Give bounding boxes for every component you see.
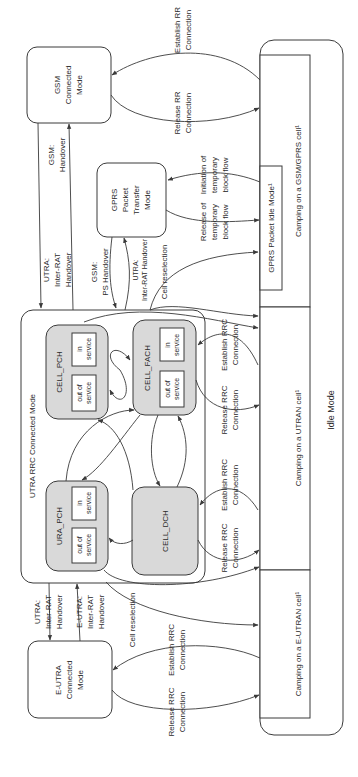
gsm-connected-mode-state: GSM Connected Mode xyxy=(27,47,111,123)
svg-text:Release RRC: Release RRC xyxy=(220,523,229,572)
label-establish-rrc-2: Establish RRC Connection xyxy=(220,459,240,511)
label-release-rrc-3: Release RRC Connection xyxy=(167,687,187,736)
ins-line2: service xyxy=(85,338,92,360)
camping-utran-label: Camping on a UTRAN cell¹ xyxy=(294,389,303,486)
cell-pch-state: CELL_PCH out of service in service xyxy=(46,325,108,419)
svg-text:UTRA:: UTRA: xyxy=(33,600,42,624)
svg-text:Initiation of: Initiation of xyxy=(199,155,208,194)
oos-line2: service xyxy=(85,534,92,556)
label-establish-rr: Establish RR Connection xyxy=(173,7,193,53)
svg-text:Connection: Connection xyxy=(184,10,193,50)
label-gsm-ps-handover: GSM: PS Handover xyxy=(90,248,110,296)
label-gsm-handover: GSM: Handover xyxy=(47,137,67,172)
svg-text:Handover: Handover xyxy=(58,137,67,172)
ins-line1: in xyxy=(164,342,171,348)
label-init-tbf: Initiation of temporary block flow xyxy=(199,155,230,194)
svg-text:Release RRC: Release RRC xyxy=(220,385,229,434)
gsm-connected-line3: Mode xyxy=(75,74,84,95)
svg-text:Release RRC: Release RRC xyxy=(167,687,176,736)
cell-pch-label: CELL_PCH xyxy=(55,351,64,393)
utra-rrc-label: UTRA RRC Connected Mode xyxy=(28,393,37,498)
label-release-rrc-2: Release RRC Connection xyxy=(220,523,240,572)
label-utra-irat-handover-2: UTRA: Inter-RAT Handover xyxy=(132,238,148,301)
svg-text:Handover: Handover xyxy=(55,594,64,629)
camping-eutran-label: Camping on a E-UTRAN cell¹ xyxy=(294,591,303,696)
svg-text:Connection: Connection xyxy=(231,528,240,568)
label-cell-reselection-top: Cell reselection xyxy=(160,245,169,300)
idle-mode-label: Idle Mode xyxy=(326,390,336,430)
label-cell-reselection-bottom: Cell reselection xyxy=(128,593,137,648)
camping-gsm-label: Camping on a GSM/GPRS cell¹ xyxy=(294,125,303,237)
svg-text:Connection: Connection xyxy=(178,630,187,670)
oos-line2: service xyxy=(173,378,180,400)
svg-text:temporary: temporary xyxy=(210,204,219,240)
svg-text:GSM:: GSM: xyxy=(47,145,56,165)
eutra-line1: E-UTRA xyxy=(54,664,63,694)
svg-text:PS Handover: PS Handover xyxy=(101,248,110,296)
eutra-connected-mode-state: E-UTRA Connected Mode xyxy=(28,641,112,718)
cell-dch-state: CELL_DCH xyxy=(132,487,198,575)
svg-text:GSM:: GSM: xyxy=(90,262,99,282)
ins-line1: in xyxy=(76,346,83,352)
ins-line1: in xyxy=(76,500,83,506)
ins-line2: service xyxy=(85,492,92,514)
camping-eutran-box: Camping on a E-UTRAN cell¹ xyxy=(260,570,310,718)
svg-text:temporary: temporary xyxy=(210,157,219,193)
svg-text:Establish RRC: Establish RRC xyxy=(220,459,229,511)
ins-line2: service xyxy=(173,334,180,356)
gprs-packet-idle-label: GPRS Packet Idle Mode¹ xyxy=(267,183,276,273)
svg-text:UTRA:: UTRA: xyxy=(42,258,51,282)
svg-text:Connection: Connection xyxy=(184,93,193,133)
label-release-tbf: Release of temporary block flow xyxy=(199,202,230,241)
cell-fach-label: CELL_FACH xyxy=(143,345,152,391)
rrc-state-diagram: Idle Mode Camping on a GSM/GPRS cell¹ GP… xyxy=(0,0,358,777)
svg-text:Connection: Connection xyxy=(231,325,240,365)
svg-text:Connection: Connection xyxy=(231,390,240,430)
camping-utran-box: Camping on a UTRAN cell¹ xyxy=(260,307,310,570)
svg-text:Handover: Handover xyxy=(64,252,73,287)
gprs-line2: Packet xyxy=(121,187,130,212)
svg-text:Release RR: Release RR xyxy=(173,91,182,134)
svg-text:Connection: Connection xyxy=(178,692,187,732)
oos-line2: service xyxy=(85,382,92,404)
gprs-line4: Mode xyxy=(143,189,152,210)
oos-line1: out of xyxy=(164,380,171,398)
svg-text:E-UTRA:: E-UTRA: xyxy=(75,596,84,628)
cell-dch-label: CELL_DCH xyxy=(161,510,170,552)
svg-text:Inter-RAT Handover: Inter-RAT Handover xyxy=(141,238,148,301)
label-release-rr: Release RR Connection xyxy=(173,91,193,134)
label-establish-rrc-1: Establish RRC Connection xyxy=(220,319,240,371)
label-utra-irat-handover-3: UTRA: Inter-RAT Handover xyxy=(33,594,64,629)
oos-line1: out of xyxy=(76,536,83,554)
svg-text:block flow: block flow xyxy=(221,204,230,239)
svg-text:Handover: Handover xyxy=(97,594,106,629)
ura-pch-label: URA_PCH xyxy=(55,507,64,545)
label-establish-rrc-3: Establish RRC Connection xyxy=(167,624,187,676)
svg-text:Inter-RAT: Inter-RAT xyxy=(44,595,53,629)
svg-text:Establish RR: Establish RR xyxy=(173,7,182,53)
svg-text:UTRA:: UTRA: xyxy=(132,259,139,280)
eutra-line2: Connected xyxy=(65,661,74,700)
cell-fach-state: CELL_FACH out of service in service xyxy=(133,320,196,415)
gsm-connected-line2: Connected xyxy=(64,66,73,105)
svg-text:Inter-RAT: Inter-RAT xyxy=(86,595,95,629)
svg-text:Inter-RAT: Inter-RAT xyxy=(53,253,62,287)
label-utra-irat-handover: UTRA: Inter-RAT Handover xyxy=(42,252,73,287)
gprs-line3: Transfer xyxy=(132,185,141,215)
svg-text:block flow: block flow xyxy=(221,157,230,192)
gprs-line1: GPRS xyxy=(110,189,119,212)
label-eutra-irat-handover: E-UTRA: Inter-RAT Handover xyxy=(75,594,106,629)
svg-text:Establish RRC: Establish RRC xyxy=(220,319,229,371)
oos-line1: out of xyxy=(76,384,83,402)
gprs-packet-transfer-state: GPRS Packet Transfer Mode xyxy=(97,163,166,237)
svg-text:Release of: Release of xyxy=(199,202,208,241)
eutra-line3: Mode xyxy=(76,669,85,690)
ura-pch-state: URA_PCH out of service in service xyxy=(46,481,108,571)
gsm-connected-line1: GSM xyxy=(53,76,62,95)
svg-text:Establish RRC: Establish RRC xyxy=(167,624,176,676)
gprs-packet-idle-box: GPRS Packet Idle Mode¹ xyxy=(260,166,282,290)
label-release-rrc-1: Release RRC Connection xyxy=(220,385,240,434)
svg-text:Connection: Connection xyxy=(231,465,240,505)
